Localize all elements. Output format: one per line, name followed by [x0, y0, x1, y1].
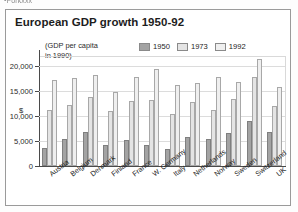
legend-item-1973[interactable]: 1973: [177, 42, 208, 51]
bar-group: [101, 56, 122, 166]
x-axis-label-cell: UK: [265, 168, 286, 206]
bar-1992: [134, 77, 139, 167]
bar-1992: [257, 59, 262, 166]
plot-frame-right: [285, 56, 286, 166]
bar-group: [142, 56, 163, 166]
bar-1992: [113, 92, 118, 166]
legend-item-1992[interactable]: 1992: [215, 42, 246, 51]
x-axis-label-cell: Denmark: [80, 168, 101, 206]
x-axis-label: UK: [274, 165, 287, 178]
x-axis-label-cell: Norway: [204, 168, 225, 206]
y-axis-tick-label: 5,000: [14, 137, 33, 146]
y-axis-tick-label: 0: [29, 162, 33, 171]
x-axis-label-cell: W. Germany: [142, 168, 163, 206]
bar-groups: [39, 56, 285, 166]
legend-swatch-1950: [139, 43, 150, 51]
bleed-text-label: Porkxxx: [7, 0, 33, 4]
bar-1992: [195, 83, 200, 166]
axis-note-line-1: (GDP per capita: [45, 41, 98, 51]
legend-label-1973: 1973: [191, 42, 208, 51]
bar-group: [244, 56, 265, 166]
x-axis-label-cell: Belgium: [60, 168, 81, 206]
x-axis-label-cell: Finland: [101, 168, 122, 206]
chart-legend: 1950 1973 1992: [139, 42, 246, 51]
y-axis-tick-label: 15,000: [10, 87, 33, 96]
legend-swatch-1973: [177, 43, 188, 51]
bar-group: [224, 56, 245, 166]
x-axis-label-cell: France: [121, 168, 142, 206]
x-axis-label-cell: Switzerland: [245, 168, 266, 206]
y-axis-tick-label: 10,000: [10, 112, 33, 121]
legend-swatch-1992: [215, 43, 226, 51]
bar-1992: [236, 82, 241, 167]
bar-group: [121, 56, 142, 166]
plot-area: 05,00010,00015,00020,000: [39, 56, 285, 166]
bar-1992: [52, 80, 57, 166]
chart-figure: European GDP growth 1950-92 (GDP per cap…: [5, 9, 291, 206]
legend-item-1950[interactable]: 1950: [139, 42, 170, 51]
bar-group: [60, 56, 81, 166]
legend-label-1950: 1950: [153, 42, 170, 51]
y-axis-tick-label: 20,000: [10, 62, 33, 71]
bar-1992: [154, 69, 159, 166]
x-axis-label-cell: Italy: [162, 168, 183, 206]
page-bleed-text: •Porkxxx: [4, 0, 32, 4]
page-root: •Porkxxx European GDP growth 1950-92 (GD…: [0, 0, 298, 212]
x-axis-label-cell: Netherlands: [183, 168, 204, 206]
x-axis-label-cell: Austria: [39, 168, 60, 206]
legend-label-1992: 1992: [229, 42, 246, 51]
bullet-icon: •: [4, 0, 7, 3]
bar-group: [39, 56, 60, 166]
bar-1992: [93, 75, 98, 167]
y-tick-mark: [35, 166, 39, 167]
chart-title: European GDP growth 1950-92: [15, 16, 184, 28]
bar-group: [80, 56, 101, 166]
bar-1992: [72, 78, 77, 167]
x-axis-labels: AustriaBelgiumDenmarkFinlandFranceW. Ger…: [39, 168, 286, 206]
x-axis-label-cell: Sweden: [224, 168, 245, 206]
bar-group: [183, 56, 204, 166]
